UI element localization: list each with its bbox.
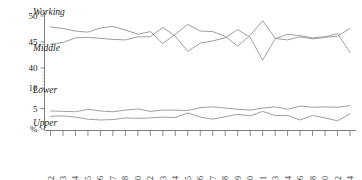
series-label-lower: Lower (32, 85, 58, 95)
y-tick-label: 40 (29, 63, 39, 73)
x-tick-label: 2002 (334, 176, 343, 180)
x-tick-label: 1996 (296, 176, 305, 180)
x-tick-label: 1975 (84, 176, 93, 180)
x-tick-label: 1991 (259, 176, 268, 180)
series-label-upper: Upper (33, 118, 58, 128)
x-tick-group (51, 131, 351, 137)
series-line-middle (51, 27, 351, 60)
x-tick-label: 1980 (134, 176, 143, 180)
x-tick-label: 1987 (209, 176, 218, 180)
chart-page: 504540105% 19721973197419751976197719781… (0, 0, 362, 180)
x-tick-label: 1977 (109, 176, 118, 180)
series-label-working: Working (33, 7, 65, 17)
x-tick-label: 1998 (309, 176, 318, 180)
x-tick-label: 1985 (184, 176, 193, 180)
x-tick-label: 1984 (171, 176, 180, 180)
x-tick-label: 1978 (121, 176, 130, 180)
x-tick-label: 1993 (271, 176, 280, 180)
x-tick-label: 1994 (284, 176, 293, 180)
y-tick-label: 5 (33, 104, 38, 114)
x-tick-label: 1982 (146, 176, 155, 180)
x-tick-label: 1986 (196, 176, 205, 180)
x-tick-label: 1983 (159, 176, 168, 180)
y-tick-label-group: 504540105% (29, 11, 39, 134)
series-line-upper (51, 111, 351, 120)
x-tick-label: 1989 (234, 176, 243, 180)
y-tick-group (41, 16, 45, 129)
series-path-group (51, 21, 351, 121)
series-line-working (51, 21, 351, 46)
x-tick-label: 1973 (59, 176, 68, 180)
series-label-middle: Middle (32, 43, 60, 53)
x-tick-label: 1974 (71, 176, 80, 180)
x-tick-label: 1976 (96, 176, 105, 180)
x-tick-label: 2000 (321, 176, 330, 180)
line-chart: 504540105% 19721973197419751976197719781… (0, 0, 362, 180)
x-tick-label: 1990 (246, 176, 255, 180)
x-tick-label: 1972 (47, 176, 56, 180)
x-tick-label-group: 1972197319741975197619771978198019821983… (47, 176, 356, 180)
series-line-lower (51, 106, 351, 112)
x-tick-label: 2004 (346, 176, 355, 180)
x-tick-label: 1988 (221, 176, 230, 180)
